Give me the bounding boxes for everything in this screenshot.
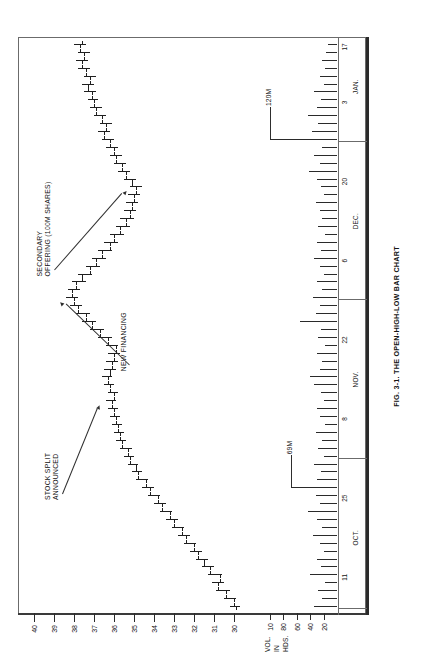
ohlc-bar xyxy=(114,432,124,433)
volume-tick-label: 60 xyxy=(293,623,300,651)
price-tick xyxy=(174,613,175,622)
volume-bar xyxy=(317,559,337,560)
date-axis: 1125822620317OCT.NOV.DEC.JAN. xyxy=(338,37,366,615)
volume-bar xyxy=(322,60,337,61)
ohlc-bar xyxy=(166,519,178,520)
ohlc-bar xyxy=(78,274,92,275)
price-tick-label: 39 xyxy=(51,625,58,653)
volume-bar xyxy=(321,329,337,330)
open-tick xyxy=(94,100,95,103)
price-tick xyxy=(74,613,75,622)
open-tick xyxy=(186,536,187,539)
volume-annotation-120m-leader xyxy=(270,107,271,139)
ohlc-bar xyxy=(70,305,82,306)
open-tick xyxy=(110,243,111,246)
close-tick xyxy=(122,168,123,171)
volume-bar xyxy=(317,179,337,180)
ohlc-bar xyxy=(106,400,116,401)
close-tick xyxy=(186,540,187,543)
close-tick xyxy=(114,397,115,400)
ohlc-bar xyxy=(72,281,86,282)
open-tick xyxy=(96,108,97,111)
ohlc-bar xyxy=(104,384,114,385)
ohlc-bar xyxy=(102,139,114,140)
volume-annotation-69m-leader xyxy=(291,455,292,487)
price-tick-label: 32 xyxy=(191,625,198,653)
volume-bar xyxy=(291,487,337,488)
close-tick xyxy=(96,263,97,266)
price-tick xyxy=(234,613,235,622)
open-tick xyxy=(174,520,175,523)
close-tick xyxy=(94,104,95,107)
volume-bar xyxy=(318,123,337,124)
annotation-secondary-offering-line: OFFERING (100M SHARES) xyxy=(44,181,52,276)
ohlc-bar xyxy=(118,171,130,172)
open-tick xyxy=(122,441,123,444)
volume-bar xyxy=(300,321,338,322)
close-tick xyxy=(116,421,117,424)
open-tick xyxy=(158,496,159,499)
open-tick xyxy=(234,599,235,602)
close-tick xyxy=(182,532,183,535)
open-tick xyxy=(182,528,183,531)
close-tick xyxy=(138,476,139,479)
close-tick xyxy=(90,271,91,274)
date-tick-label: 3 xyxy=(341,101,348,105)
open-tick xyxy=(110,370,111,373)
volume-bar xyxy=(317,479,337,480)
volume-bar xyxy=(321,471,337,472)
close-tick xyxy=(126,223,127,226)
month-label: DEC. xyxy=(352,213,359,229)
open-tick xyxy=(138,472,139,475)
close-tick xyxy=(120,231,121,234)
close-tick xyxy=(132,207,133,210)
open-tick xyxy=(204,560,205,563)
open-tick xyxy=(132,203,133,206)
open-tick xyxy=(118,425,119,428)
open-tick xyxy=(72,290,73,293)
close-tick xyxy=(84,57,85,60)
annotation-secondary-offering: SECONDARYOFFERING (100M SHARES) xyxy=(36,181,53,276)
volume-bar xyxy=(313,535,337,536)
open-tick xyxy=(130,457,131,460)
open-tick xyxy=(170,512,171,515)
volume-bar xyxy=(324,194,337,195)
volume-bar xyxy=(325,234,337,235)
open-tick xyxy=(92,93,93,96)
ohlc-bar xyxy=(108,392,118,393)
ohlc-bar xyxy=(86,266,100,267)
volume-bar xyxy=(314,464,337,465)
volume-bar xyxy=(325,345,337,346)
close-tick xyxy=(78,310,79,313)
close-tick xyxy=(72,294,73,297)
volume-axis-label-line: IN xyxy=(273,645,280,652)
month-separator xyxy=(339,458,367,459)
open-tick xyxy=(220,575,221,578)
price-tick xyxy=(54,613,55,622)
volume-bar xyxy=(313,297,337,298)
volume-annotation-69m: 69M xyxy=(286,441,293,454)
annotation-stock-split-line: ANNOUNCED xyxy=(52,453,60,500)
volume-bar xyxy=(318,337,337,338)
open-tick xyxy=(130,211,131,214)
annotation-stock-split: STOCK SPLITANNOUNCED xyxy=(44,453,61,500)
open-tick xyxy=(210,567,211,570)
open-tick xyxy=(116,417,117,420)
ohlc-bar xyxy=(116,226,130,227)
volume-bar xyxy=(312,131,337,132)
price-tick-label: 37 xyxy=(91,625,98,653)
open-tick xyxy=(108,338,109,341)
volume-bar xyxy=(324,551,337,552)
volume-bar xyxy=(310,376,337,377)
volume-bar xyxy=(324,274,337,275)
close-tick xyxy=(110,247,111,250)
close-tick xyxy=(146,484,147,487)
volume-bar xyxy=(320,369,337,370)
open-tick xyxy=(226,591,227,594)
volume-bar xyxy=(325,424,337,425)
open-tick xyxy=(86,314,87,317)
figure-caption: FIG. 3-1. THE OPEN-HIGH-LOW BAR CHART xyxy=(392,0,401,653)
annotation-secondary-offering-line: SECONDARY xyxy=(36,181,44,276)
ohlc-bar xyxy=(178,535,190,536)
price-tick xyxy=(154,613,155,622)
